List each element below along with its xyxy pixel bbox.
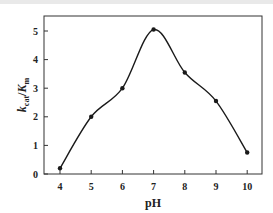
y-tick-label: 1 [33,140,38,151]
y-tick-label: 5 [33,26,38,37]
data-point [214,99,218,103]
y-tick-label: 2 [33,111,38,122]
x-tick-label: 8 [182,181,187,192]
data-point [151,27,155,31]
y-axis-ticks: 012345 [33,26,48,180]
x-tick-label: 6 [120,181,125,192]
data-point [89,115,93,119]
x-tick-label: 4 [58,181,63,192]
data-point [245,150,249,154]
y-tick-label: 4 [33,54,38,65]
data-point [120,86,124,90]
plot-frame [44,16,262,174]
y-axis-title: kcat/Km [15,78,31,113]
x-axis-ticks: 45678910 [58,170,253,192]
x-tick-label: 7 [151,181,156,192]
data-point [183,70,187,74]
data-point [58,166,62,170]
data-markers [58,27,250,170]
x-tick-label: 5 [89,181,94,192]
y-tick-label: 0 [33,169,38,180]
data-curve [60,29,247,168]
y-tick-label: 3 [33,83,38,94]
chart: 012345 45678910 pH kcat/Km [0,0,273,213]
x-tick-label: 9 [214,181,219,192]
x-axis-title: pH [145,196,162,210]
x-tick-label: 10 [242,181,252,192]
